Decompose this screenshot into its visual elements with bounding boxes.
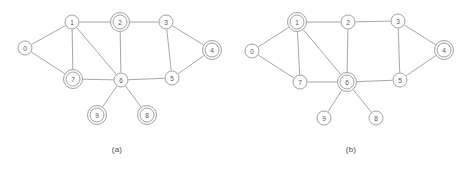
edge-layer <box>31 22 204 107</box>
graph-node-2[interactable]: 2 <box>111 13 130 32</box>
node-label: 2 <box>346 19 350 26</box>
graph-edge <box>347 29 348 72</box>
graph-node-8[interactable]: 8 <box>138 106 157 125</box>
graph-edge <box>72 29 73 69</box>
node-label: 9 <box>95 112 99 119</box>
graph-edge <box>31 52 64 74</box>
graph-edge <box>77 28 116 75</box>
graph-node-5[interactable]: 5 <box>393 73 407 87</box>
figure-container: 0123456789 (a) 0123456789 (b) <box>0 0 468 172</box>
graph-edge <box>83 79 114 80</box>
graph-panel-a: 0123456789 (a) <box>0 0 234 172</box>
node-label: 0 <box>250 48 254 55</box>
graph-node-3[interactable]: 3 <box>159 15 173 29</box>
graph-edge <box>297 32 299 75</box>
graph-edge <box>178 56 204 74</box>
graph-edge <box>357 80 393 81</box>
edge-layer <box>258 21 435 112</box>
node-label: 9 <box>322 115 326 122</box>
node-label: 7 <box>71 76 75 83</box>
graph-edge <box>125 86 141 107</box>
node-label: 4 <box>210 47 214 54</box>
node-label: 1 <box>70 19 74 26</box>
graph-node-3[interactable]: 3 <box>391 14 405 28</box>
graph-edge <box>128 78 164 79</box>
node-label: 2 <box>118 19 122 26</box>
graph-node-2[interactable]: 2 <box>341 15 355 29</box>
graph-node-7[interactable]: 7 <box>64 70 83 89</box>
graph-node-6[interactable]: 6 <box>338 73 357 92</box>
graph-edge <box>406 56 436 76</box>
graph-node-7[interactable]: 7 <box>293 75 307 89</box>
graph-node-5[interactable]: 5 <box>165 71 179 85</box>
node-label: 7 <box>298 79 302 86</box>
graph-node-6[interactable]: 6 <box>114 73 128 87</box>
graph-node-0[interactable]: 0 <box>18 41 32 55</box>
graph-a-canvas: 0123456789 <box>0 0 234 140</box>
graph-b-canvas: 0123456789 <box>234 0 468 140</box>
graph-edge <box>258 27 288 47</box>
node-label: 5 <box>398 77 402 84</box>
graph-edge <box>167 29 171 70</box>
panel-a-caption: (a) <box>0 145 234 154</box>
graph-edge <box>32 26 66 45</box>
node-label: 1 <box>295 19 299 26</box>
graph-node-8[interactable]: 8 <box>369 111 383 125</box>
graph-edge <box>328 90 342 111</box>
node-label: 8 <box>374 115 378 122</box>
node-label: 4 <box>442 47 446 54</box>
graph-edge <box>303 30 340 75</box>
graph-edge <box>398 28 399 72</box>
graph-edge <box>353 90 371 112</box>
graph-node-4[interactable]: 4 <box>435 41 454 60</box>
graph-edge <box>120 32 121 73</box>
graph-edge <box>103 86 117 107</box>
node-label: 6 <box>119 77 123 84</box>
node-label: 3 <box>164 19 168 26</box>
graph-node-1[interactable]: 1 <box>288 13 307 32</box>
node-label: 6 <box>345 79 349 86</box>
graph-edge <box>404 25 435 45</box>
graph-edge <box>172 26 203 45</box>
panel-b-caption: (b) <box>234 145 468 154</box>
graph-node-1[interactable]: 1 <box>65 15 79 29</box>
graph-node-4[interactable]: 4 <box>203 41 222 60</box>
node-label: 0 <box>23 45 27 52</box>
graph-node-9[interactable]: 9 <box>88 106 107 125</box>
node-label: 8 <box>145 112 149 119</box>
graph-edge <box>258 55 293 78</box>
graph-panel-b: 0123456789 (b) <box>234 0 468 172</box>
graph-node-9[interactable]: 9 <box>317 111 331 125</box>
node-label: 5 <box>170 75 174 82</box>
graph-node-0[interactable]: 0 <box>245 44 259 58</box>
node-label: 3 <box>396 18 400 25</box>
graph-edge <box>355 21 390 22</box>
